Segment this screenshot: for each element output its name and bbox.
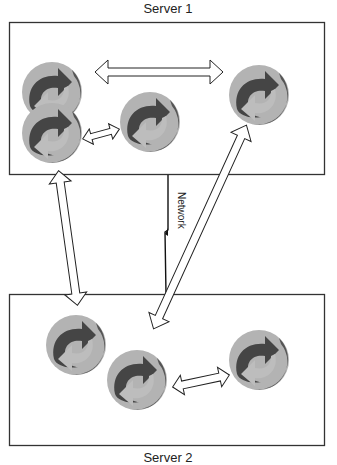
process-icon-p6 [107,350,167,410]
network-label: Network [176,192,187,230]
server-2-label: Server 2 [118,450,218,465]
arrow-p1-p4 [95,60,223,84]
process-icon-p5 [46,315,106,375]
process-icon-p7 [229,330,289,390]
arrow-p2-p3 [81,121,122,146]
process-icon-p2 [22,103,82,163]
arrow-server1-server2 [48,169,89,307]
process-icon-p3 [120,92,180,152]
arrow-p6-p7 [171,365,232,397]
process-icon-p4 [229,65,289,125]
arrow-p4-p6 [144,121,257,334]
